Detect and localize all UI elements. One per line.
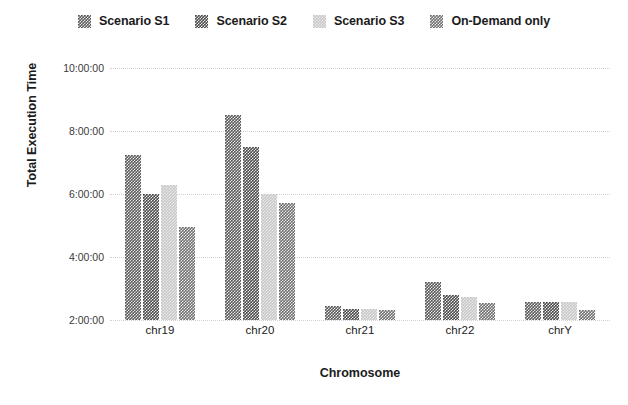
- bar[interactable]: [379, 310, 395, 320]
- bar-group-chr19: chr19: [110, 68, 210, 320]
- x-axis-tick-label: chr20: [210, 324, 310, 336]
- chart-legend: Scenario S1Scenario S2Scenario S3On-Dema…: [0, 14, 628, 28]
- bar[interactable]: [361, 309, 377, 320]
- bar[interactable]: [179, 227, 195, 320]
- gridline: [110, 320, 610, 321]
- bar-group-chrY: chrY: [510, 68, 610, 320]
- legend-item[interactable]: Scenario S1: [78, 14, 169, 28]
- bar[interactable]: [543, 302, 559, 320]
- bar-groups: chr19chr20chr21chr22chrY: [110, 68, 610, 320]
- bar[interactable]: [279, 203, 295, 320]
- bar[interactable]: [325, 306, 341, 320]
- x-axis-tick-label: chr22: [410, 324, 510, 336]
- bar[interactable]: [479, 303, 495, 320]
- bar[interactable]: [443, 295, 459, 320]
- x-axis-tick-label: chr21: [310, 324, 410, 336]
- x-axis-tick-label: chrY: [510, 324, 610, 336]
- y-axis-tick-label: 10:00:00: [63, 62, 104, 74]
- bar[interactable]: [425, 282, 441, 320]
- x-axis-tick-label: chr19: [110, 324, 210, 336]
- legend-swatch-icon: [195, 15, 208, 28]
- bar-group-chr21: chr21: [310, 68, 410, 320]
- bar[interactable]: [125, 155, 141, 320]
- x-axis-title: Chromosome: [110, 366, 610, 380]
- bar[interactable]: [343, 309, 359, 320]
- legend-swatch-icon: [313, 15, 326, 28]
- bar[interactable]: [561, 302, 577, 320]
- legend-item-label: Scenario S1: [99, 14, 169, 28]
- y-axis-tick-labels: 10:00:008:00:006:00:004:00:002:00:00: [0, 68, 104, 320]
- y-axis-tick-label: 6:00:00: [69, 188, 104, 200]
- bar[interactable]: [225, 115, 241, 320]
- bar[interactable]: [579, 310, 595, 320]
- bar[interactable]: [261, 194, 277, 320]
- bar[interactable]: [243, 147, 259, 320]
- plot-area: chr19chr20chr21chr22chrY: [110, 68, 610, 320]
- legend-item[interactable]: Scenario S2: [195, 14, 286, 28]
- legend-item-label: Scenario S3: [334, 14, 404, 28]
- legend-item[interactable]: On-Demand only: [430, 14, 550, 28]
- bar[interactable]: [143, 194, 159, 320]
- bar[interactable]: [161, 185, 177, 320]
- y-axis-tick-label: 2:00:00: [69, 314, 104, 326]
- legend-item[interactable]: Scenario S3: [313, 14, 404, 28]
- y-axis-tick-label: 8:00:00: [69, 125, 104, 137]
- legend-swatch-icon: [78, 15, 91, 28]
- y-axis-title: Total Execution Time: [25, 45, 39, 205]
- legend-item-label: On-Demand only: [451, 14, 550, 28]
- bar-group-chr22: chr22: [410, 68, 510, 320]
- bar[interactable]: [525, 302, 541, 320]
- bar[interactable]: [461, 297, 477, 320]
- bar-group-chr20: chr20: [210, 68, 310, 320]
- legend-swatch-icon: [430, 15, 443, 28]
- y-axis-tick-label: 4:00:00: [69, 251, 104, 263]
- legend-item-label: Scenario S2: [216, 14, 286, 28]
